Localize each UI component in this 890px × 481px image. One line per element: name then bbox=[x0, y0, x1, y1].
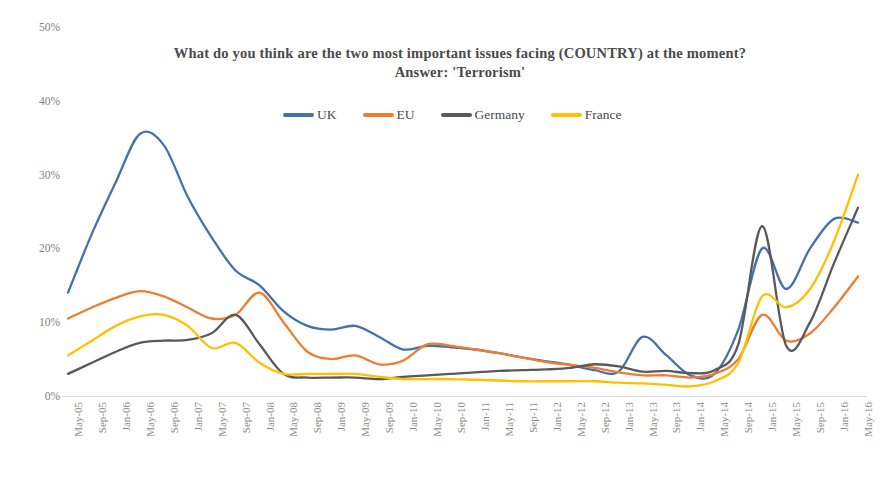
legend-label-france: France bbox=[585, 107, 622, 123]
x-axis-tick-may-15: May-15 bbox=[790, 402, 802, 437]
x-axis-tick-sep-11: Sep-11 bbox=[527, 402, 539, 433]
legend-item-france[interactable]: France bbox=[551, 107, 622, 123]
x-axis-tick-may-14: May-14 bbox=[718, 402, 730, 437]
legend-label-uk: UK bbox=[317, 107, 337, 123]
x-axis-tick-jan-08: Jan-08 bbox=[264, 402, 276, 431]
x-axis: May-05Sep-05Jan-06May-06Sep-06Jan-07May-… bbox=[0, 396, 890, 481]
x-axis-tick-jan-10: Jan-10 bbox=[407, 402, 419, 431]
legend-label-germany: Germany bbox=[475, 107, 525, 123]
x-axis-tick-sep-15: Sep-15 bbox=[814, 402, 826, 433]
x-axis-tick-jan-15: Jan-15 bbox=[766, 402, 778, 431]
x-axis-tick-jan-16: Jan-16 bbox=[838, 402, 850, 431]
y-axis-tick-50: 50% bbox=[14, 21, 60, 33]
x-axis-tick-jan-11: Jan-11 bbox=[479, 402, 491, 431]
terrorism-line-chart: What do you think are the two most impor… bbox=[0, 0, 890, 481]
legend-item-eu[interactable]: EU bbox=[363, 107, 415, 123]
x-axis-tick-may-06: May-06 bbox=[144, 402, 156, 437]
legend-item-germany[interactable]: Germany bbox=[441, 107, 525, 123]
x-axis-tick-sep-07: Sep-07 bbox=[240, 402, 252, 433]
x-axis-tick-sep-06: Sep-06 bbox=[168, 402, 180, 433]
chart-subtitle: Answer: 'Terrorism' bbox=[110, 63, 810, 82]
legend-swatch-uk bbox=[283, 113, 314, 116]
legend-swatch-france bbox=[551, 113, 582, 116]
legend-item-uk[interactable]: UK bbox=[283, 107, 337, 123]
y-axis-tick-40: 40% bbox=[14, 95, 60, 107]
x-axis-tick-jan-09: Jan-09 bbox=[335, 402, 347, 431]
y-axis-tick-10: 10% bbox=[14, 316, 60, 328]
series-line-germany bbox=[68, 208, 858, 379]
series-line-uk bbox=[68, 132, 858, 379]
x-axis-tick-may-11: May-11 bbox=[503, 402, 515, 436]
legend-swatch-germany bbox=[441, 113, 472, 116]
x-axis-tick-sep-09: Sep-09 bbox=[383, 402, 395, 433]
x-axis-tick-sep-05: Sep-05 bbox=[96, 402, 108, 433]
legend-label-eu: EU bbox=[397, 107, 415, 123]
x-axis-tick-may-10: May-10 bbox=[431, 402, 443, 437]
x-axis-tick-may-09: May-09 bbox=[359, 402, 371, 437]
x-axis-tick-sep-14: Sep-14 bbox=[742, 402, 754, 433]
x-axis-tick-may-05: May-05 bbox=[72, 402, 84, 437]
x-axis-tick-jan-06: Jan-06 bbox=[120, 402, 132, 431]
y-axis-tick-20: 20% bbox=[14, 242, 60, 254]
chart-title: What do you think are the two most impor… bbox=[110, 44, 810, 82]
x-axis-tick-jan-07: Jan-07 bbox=[192, 402, 204, 431]
series-line-france bbox=[68, 175, 858, 387]
series-line-eu bbox=[68, 276, 858, 377]
x-axis-tick-sep-13: Sep-13 bbox=[670, 402, 682, 433]
x-axis-tick-may-13: May-13 bbox=[647, 402, 659, 437]
x-axis-tick-jan-12: Jan-12 bbox=[551, 402, 563, 431]
x-axis-tick-jan-13: Jan-13 bbox=[623, 402, 635, 431]
x-axis-tick-may-07: May-07 bbox=[216, 402, 228, 437]
legend-swatch-eu bbox=[363, 113, 394, 116]
chart-title-line1: What do you think are the two most impor… bbox=[174, 45, 746, 61]
x-axis-tick-may-12: May-12 bbox=[575, 402, 587, 437]
y-axis-tick-30: 30% bbox=[14, 169, 60, 181]
x-axis-tick-sep-10: Sep-10 bbox=[455, 402, 467, 433]
chart-legend: UKEUGermanyFrance bbox=[283, 107, 621, 123]
x-axis-tick-may-08: May-08 bbox=[287, 402, 299, 437]
x-axis-tick-sep-08: Sep-08 bbox=[311, 402, 323, 433]
x-axis-tick-may-16: May-16 bbox=[862, 402, 874, 437]
x-axis-tick-jan-14: Jan-14 bbox=[694, 402, 706, 431]
x-axis-tick-sep-12: Sep-12 bbox=[599, 402, 611, 433]
